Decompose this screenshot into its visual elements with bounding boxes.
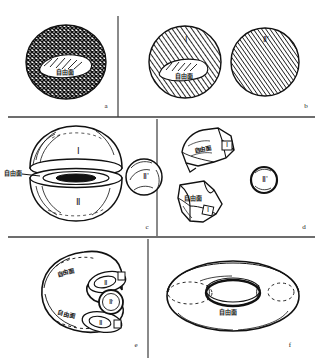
panel-d-region-one-lower-label: Ⅰ — [207, 206, 209, 213]
panel-c-region-two-label: Ⅱ — [76, 197, 80, 207]
panel-b: Ⅰ 自由面 Ⅱ' b — [149, 26, 308, 110]
panel-c-region-two-prime-label: Ⅱ' — [143, 172, 149, 181]
panel-a-free-surface-label: 自由面 — [56, 68, 74, 76]
panel-b-free-surface-label: 自由面 — [175, 72, 193, 80]
panel-d: Ⅰ 自由面 Ⅰ 自由面 Ⅱ' d — [178, 128, 306, 231]
panel-b-label: b — [304, 102, 308, 110]
panel-e: Ⅱ Ⅱ Ⅱ' 自由面 自由面 e — [42, 251, 138, 348]
panel-f: 自由面 f — [167, 261, 299, 349]
panel-c-region-one-label: Ⅰ — [77, 146, 80, 156]
panel-c-free-surface-label: 自由面 — [4, 169, 22, 177]
panel-d-free-surface-lower-label: 自由面 — [184, 194, 202, 202]
panel-c: 自由面 Ⅰ Ⅱ Ⅱ' c — [4, 126, 162, 231]
panel-f-free-surface-label: 自由面 — [219, 308, 237, 316]
panel-e-label: e — [134, 341, 137, 349]
panel-e-region-two-upper-label: Ⅱ — [104, 279, 107, 287]
panel-a: 自由面 a — [26, 25, 108, 110]
panel-a-label: a — [104, 102, 108, 110]
panel-e-region-two-lower-label: Ⅱ — [99, 319, 102, 327]
panel-b-region-two-prime-label: Ⅱ' — [263, 35, 269, 44]
panel-d-label: d — [302, 223, 306, 231]
figure-root: 自由面 a Ⅰ 自由面 Ⅱ' b — [0, 0, 323, 364]
panel-d-region-one-upper-label: Ⅰ — [226, 141, 228, 148]
panel-f-label: f — [289, 341, 292, 349]
panel-b-region-one-label: Ⅰ — [185, 35, 187, 44]
panel-d-region-two-prime-label: Ⅱ' — [262, 175, 268, 184]
panel-e-region-two-prime-label: Ⅱ' — [109, 298, 113, 306]
figure-canvas: 自由面 a Ⅰ 自由面 Ⅱ' b — [0, 0, 323, 364]
panel-c-label: c — [145, 223, 148, 231]
